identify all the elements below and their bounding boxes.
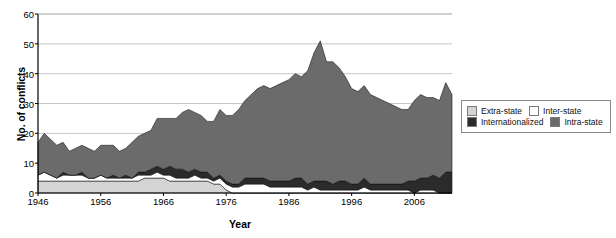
legend-row-top: Extra-state Inter-state (467, 106, 604, 116)
legend-label-extra-state: Extra-state (481, 106, 522, 116)
legend-label-inter-state: Inter-state (543, 106, 581, 116)
legend-label-internationalized: Internationalized (481, 117, 543, 127)
chart-figure: No. of conflicts 0102030405060 194619561… (0, 0, 616, 238)
legend-swatch-internationalized (467, 117, 477, 127)
chart-legend: Extra-state Inter-state Internationalize… (461, 100, 611, 133)
legend-item-extra-state[interactable]: Extra-state (467, 106, 522, 116)
legend-row-bottom: Internationalized Intra-state (467, 117, 604, 127)
legend-swatch-extra-state (467, 106, 477, 116)
legend-item-internationalized[interactable]: Internationalized (467, 117, 543, 127)
legend-swatch-inter-state (529, 106, 539, 116)
legend-swatch-intra-state (550, 117, 560, 127)
legend-item-inter-state[interactable]: Inter-state (529, 106, 581, 116)
legend-label-intra-state: Intra-state (564, 117, 602, 127)
legend-item-intra-state[interactable]: Intra-state (550, 117, 602, 127)
